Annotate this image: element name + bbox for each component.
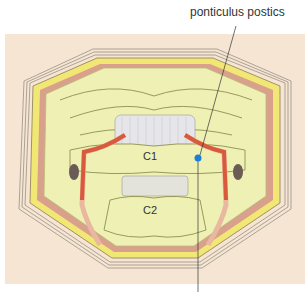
- vertebra-label-c1: C1: [143, 150, 157, 162]
- c2-vertebra: [104, 196, 206, 237]
- venous-plexus-left: [69, 164, 79, 180]
- venous-plexus-right: [233, 164, 243, 180]
- atlanto-axial-membrane: [122, 176, 188, 196]
- callout-label-ponticulus: ponticulus postics: [190, 5, 285, 19]
- atlanto-occipital-membrane: [115, 115, 195, 147]
- anatomy-illustration: [0, 0, 308, 297]
- ponticulus-marker: [195, 155, 202, 162]
- vertebra-label-c2: C2: [143, 204, 157, 216]
